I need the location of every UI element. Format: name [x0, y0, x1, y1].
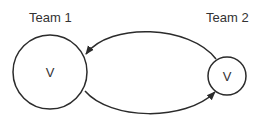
- team-diagram: Team 1 Team 2 V V: [0, 0, 259, 118]
- edge-team1-to-team2: [85, 91, 215, 114]
- edge-team2-to-team1: [86, 32, 216, 59]
- team2-node: V: [208, 57, 246, 95]
- team1-title: Team 1: [29, 10, 72, 25]
- team2-node-label: V: [223, 69, 232, 84]
- team1-node-label: V: [46, 65, 55, 80]
- team2-title: Team 2: [206, 10, 249, 25]
- team1-node: V: [13, 35, 87, 109]
